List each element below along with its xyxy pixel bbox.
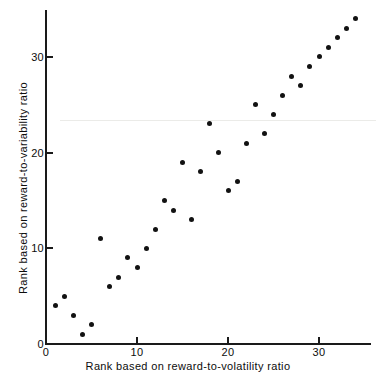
data-point — [162, 198, 167, 203]
data-point — [53, 303, 58, 308]
y-tick-label: 30 — [31, 51, 44, 63]
data-point — [189, 217, 194, 222]
x-tick-mark — [318, 337, 320, 343]
data-point — [353, 16, 358, 21]
data-point — [280, 93, 285, 98]
data-point — [80, 332, 85, 337]
data-point — [226, 188, 231, 193]
x-tick-label: 10 — [131, 346, 144, 358]
data-point — [326, 45, 331, 50]
data-point — [135, 265, 140, 270]
x-axis-title: Rank based on reward-to-volatility ratio — [0, 360, 376, 372]
y-axis-title: Rank based on reward-to-variability rati… — [17, 23, 29, 353]
x-tick-mark — [136, 337, 138, 343]
data-point — [207, 121, 212, 126]
data-point — [344, 26, 349, 31]
y-tick-label: 20 — [31, 147, 44, 159]
data-point — [307, 64, 312, 69]
y-tick-label: 0 — [38, 338, 44, 350]
data-point — [198, 169, 203, 174]
y-tick-mark — [47, 247, 53, 249]
data-point — [125, 255, 130, 260]
data-point — [116, 275, 121, 280]
data-point — [107, 284, 112, 289]
x-tick-label: 20 — [222, 346, 235, 358]
x-tick-mark — [45, 337, 47, 343]
y-tick-mark — [47, 56, 53, 58]
x-tick-label: 30 — [313, 346, 326, 358]
data-point — [317, 54, 322, 59]
x-tick-mark — [227, 337, 229, 343]
data-point — [335, 35, 340, 40]
data-point — [298, 83, 303, 88]
plot-area: 0102030 0102030 — [0, 0, 376, 376]
data-point — [98, 236, 103, 241]
data-point — [235, 179, 240, 184]
data-point — [171, 208, 176, 213]
data-point — [216, 150, 221, 155]
data-point — [262, 131, 267, 136]
data-point — [89, 322, 94, 327]
scan-line-artifact — [60, 120, 376, 121]
y-tick-label: 10 — [31, 242, 44, 254]
data-point — [153, 227, 158, 232]
data-point — [253, 102, 258, 107]
data-point — [62, 294, 67, 299]
y-tick-mark — [47, 152, 53, 154]
data-point — [289, 74, 294, 79]
data-point — [144, 246, 149, 251]
data-point — [244, 141, 249, 146]
scatter-plot-figure: 0102030 0102030 Rank based on reward-to-… — [0, 0, 376, 376]
y-axis-line — [45, 10, 47, 345]
x-axis-line — [45, 343, 371, 345]
data-point — [71, 313, 76, 318]
data-point — [271, 112, 276, 117]
data-point — [180, 160, 185, 165]
